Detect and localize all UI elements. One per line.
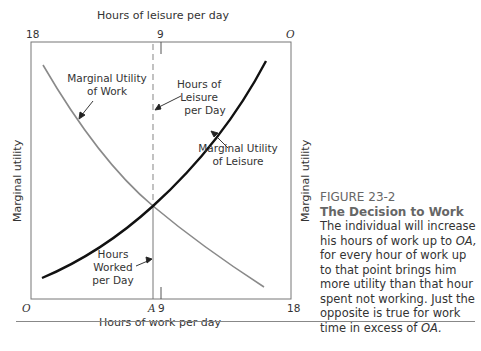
figure-caption: FIGURE 23-2 The Decision to Work The ind… <box>320 190 480 335</box>
figure-title: The Decision to Work <box>320 205 480 220</box>
hours-worked-label: Hours Worked per Day <box>88 248 138 287</box>
mu-leisure-label: Marginal Utility of Leisure <box>190 142 286 168</box>
left-axis-title: Marginal utility <box>11 140 24 222</box>
figure-body: The individual will increase his hours o… <box>320 219 480 335</box>
mu-work-label: Marginal Utility of Work <box>62 72 152 98</box>
top-tick-label-9: 9 <box>157 28 164 40</box>
top-tick-18: 18 <box>26 28 39 40</box>
arrowhead-icon <box>146 257 152 263</box>
top-axis-title: Hours of leisure per day <box>97 9 229 22</box>
right-axis-title: Marginal utility <box>299 140 312 222</box>
bottom-tick-18: 18 <box>287 302 300 314</box>
bottom-divider <box>16 321 475 322</box>
bottom-tick-origin: O <box>22 302 31 314</box>
bottom-tick-a: A <box>148 302 156 314</box>
arrowhead-icon <box>79 112 85 119</box>
bottom-tick-label-9: 9 <box>158 302 165 314</box>
bottom-axis-title: Hours of work per day <box>99 316 221 329</box>
top-tick-origin: O <box>286 28 295 40</box>
figure-number: FIGURE 23-2 <box>320 190 480 205</box>
leisure-hours-label: Hours of Leisure per Day <box>158 78 240 117</box>
